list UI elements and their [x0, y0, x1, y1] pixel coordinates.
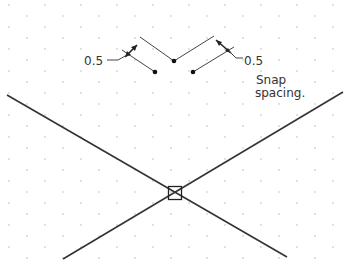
grid-dot: [152, 92, 154, 94]
grid-dot: [260, 48, 262, 50]
grid-dot: [8, 114, 10, 116]
grid-dot: [260, 158, 262, 160]
grid-dot: [152, 158, 154, 160]
grid-dot: [152, 4, 154, 6]
grid-dot: [62, 191, 64, 193]
grid-dot: [314, 59, 316, 61]
grid-dot: [170, 103, 172, 105]
grid-dot: [188, 246, 190, 248]
grid-dot: [116, 180, 118, 182]
grid-dot: [224, 202, 226, 204]
grid-dot: [44, 48, 46, 50]
grid-dot: [224, 246, 226, 248]
grid-dot: [278, 147, 280, 149]
grid-dot: [188, 70, 190, 72]
grid-dot: [224, 114, 226, 116]
grid-dot: [134, 103, 136, 105]
grid-dot: [242, 257, 244, 259]
grid-dot: [206, 37, 208, 39]
grid-dot: [98, 125, 100, 127]
grid-dot: [296, 26, 298, 28]
grid-dot: [242, 191, 244, 193]
grid-dot: [206, 103, 208, 105]
grid-dot: [44, 158, 46, 160]
grid-dot: [242, 147, 244, 149]
grid-dot: [206, 213, 208, 215]
grid-dot: [332, 4, 334, 6]
grid-dot: [296, 246, 298, 248]
grid-dot: [116, 136, 118, 138]
grid-dot: [98, 213, 100, 215]
grid-dot: [170, 15, 172, 17]
grid-dot: [8, 158, 10, 160]
grid-dot: [260, 202, 262, 204]
grid-dot: [80, 4, 82, 6]
grid-dot: [206, 235, 208, 237]
grid-dot: [26, 103, 28, 105]
grid-dot: [278, 191, 280, 193]
grid-dot: [170, 213, 172, 215]
grid-dot: [314, 257, 316, 259]
snap-spacing-diagram: 0.5 0.5 Snap spacing.: [0, 0, 349, 267]
grid-dot: [8, 246, 10, 248]
left-snap-point: [153, 70, 158, 75]
grid-dot: [332, 158, 334, 160]
grid-dot: [170, 235, 172, 237]
grid-dot: [116, 202, 118, 204]
grid-dot: [332, 70, 334, 72]
grid-dot: [116, 4, 118, 6]
grid-dot: [80, 224, 82, 226]
grid-dot: [98, 169, 100, 171]
grid-dot: [224, 4, 226, 6]
grid-dot: [188, 48, 190, 50]
grid-dot: [224, 224, 226, 226]
grid-dot: [152, 26, 154, 28]
grid-dot: [134, 257, 136, 259]
grid-dot: [170, 81, 172, 83]
grid-dot: [8, 48, 10, 50]
grid-dot: [152, 224, 154, 226]
grid-dot: [278, 37, 280, 39]
grid-dot: [134, 147, 136, 149]
grid-dot: [8, 4, 10, 6]
grid-dot: [62, 81, 64, 83]
grid-dot: [98, 15, 100, 17]
grid-dot: [26, 15, 28, 17]
grid-dot: [188, 180, 190, 182]
grid-dot: [8, 26, 10, 28]
snap-spacing-label-line2: spacing.: [255, 86, 305, 100]
grid-dot: [44, 224, 46, 226]
grid-dot: [314, 213, 316, 215]
grid-dot: [62, 147, 64, 149]
grid-dot: [26, 81, 28, 83]
grid-dot: [332, 48, 334, 50]
grid-dot: [152, 114, 154, 116]
grid-dot: [188, 224, 190, 226]
background: [0, 0, 349, 267]
grid-dot: [80, 26, 82, 28]
grid-dot: [152, 246, 154, 248]
grid-dot: [26, 235, 28, 237]
grid-dot: [296, 202, 298, 204]
grid-dot: [296, 114, 298, 116]
grid-dot: [314, 147, 316, 149]
grid-dot: [224, 180, 226, 182]
grid-dot: [314, 235, 316, 237]
grid-dot: [170, 147, 172, 149]
grid-dot: [98, 37, 100, 39]
center-snap-point: [172, 59, 177, 64]
grid-dot: [242, 169, 244, 171]
grid-dot: [152, 48, 154, 50]
grid-dot: [188, 4, 190, 6]
grid-dot: [8, 180, 10, 182]
grid-dot: [188, 114, 190, 116]
grid-dot: [278, 125, 280, 127]
grid-dot: [314, 15, 316, 17]
grid-dot: [278, 213, 280, 215]
grid-dot: [170, 169, 172, 171]
grid-dot: [116, 92, 118, 94]
grid-dot: [44, 26, 46, 28]
grid-dot: [8, 224, 10, 226]
grid-dot: [332, 114, 334, 116]
grid-dot: [62, 213, 64, 215]
